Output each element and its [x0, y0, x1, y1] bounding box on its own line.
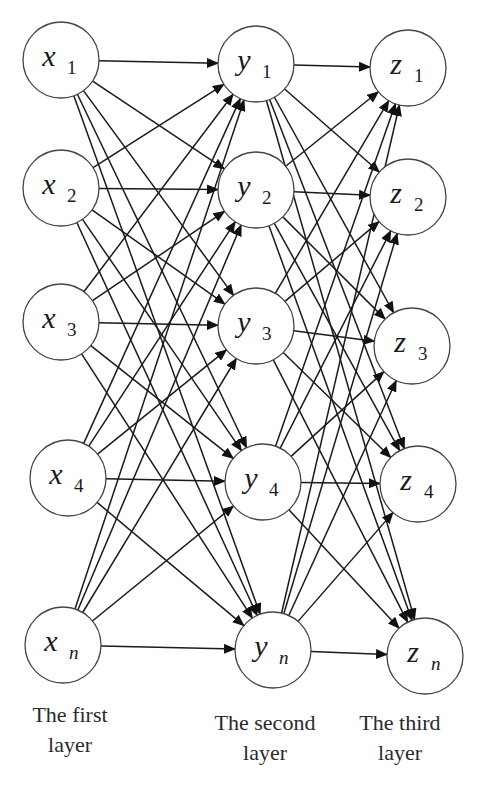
node-subscript: 3 — [67, 319, 77, 340]
node-label: y — [241, 461, 258, 494]
node-xn: xn — [25, 607, 101, 683]
node-circle — [235, 612, 311, 688]
node-subscript: 1 — [262, 61, 272, 82]
layer-label-third-line1: The third — [345, 708, 455, 738]
node-label: z — [406, 635, 419, 668]
edge-y4-z3 — [291, 372, 384, 457]
edge-xn-yn — [101, 646, 235, 649]
node-y1: y1 — [218, 26, 294, 102]
node-label: z — [389, 47, 402, 80]
node-circle — [25, 607, 101, 683]
layer-label-second: The second layer — [200, 708, 330, 768]
node-label: x — [43, 624, 58, 657]
node-subscript: 1 — [414, 65, 424, 86]
node-circle — [380, 446, 456, 522]
node-circle — [218, 26, 294, 102]
network-nodes: x1x2x3x4xny1y2y3y4ynz1z2z3z4zn — [23, 22, 463, 694]
node-label: x — [41, 167, 56, 200]
node-subscript: 3 — [418, 343, 428, 364]
node-label: y — [234, 43, 251, 76]
edge-y4-z4 — [301, 482, 380, 483]
node-circle — [23, 22, 99, 98]
node-circle — [370, 159, 446, 235]
node-circle — [218, 288, 294, 364]
edge-xn-y2 — [78, 225, 241, 610]
edge-yn-z2 — [284, 233, 397, 613]
layer-label-first-line2: layer — [10, 730, 130, 760]
node-circle — [30, 440, 106, 516]
node-x4: x4 — [30, 440, 106, 516]
node-circle — [370, 30, 446, 106]
node-subscript: 2 — [262, 187, 272, 208]
node-label: z — [399, 463, 412, 496]
edge-xn-y4 — [92, 506, 233, 621]
node-subscript: 4 — [269, 479, 279, 500]
node-x3: x3 — [23, 284, 99, 360]
node-subscript: 3 — [262, 323, 272, 344]
layer-label-second-line1: The second — [200, 708, 330, 738]
node-z2: z2 — [370, 159, 446, 235]
node-y2: y2 — [218, 152, 294, 228]
edge-y4-z1 — [276, 104, 396, 446]
network-diagram: x1x2x3x4xny1y2y3y4ynz1z2z3z4zn — [0, 0, 485, 787]
layer-label-second-line2: layer — [200, 738, 330, 768]
node-label: z — [393, 325, 406, 358]
node-y4: y4 — [225, 444, 301, 520]
node-subscript: 2 — [414, 194, 424, 215]
node-label: y — [234, 169, 251, 202]
node-label: z — [389, 176, 402, 209]
node-subscript: 4 — [424, 481, 434, 502]
node-y3: y3 — [218, 288, 294, 364]
node-z1: z1 — [370, 30, 446, 106]
node-circle — [218, 152, 294, 228]
node-yn: yn — [235, 612, 311, 688]
edge-y1-z4 — [270, 99, 405, 448]
edge-x4-yn — [97, 502, 244, 625]
node-circle — [23, 284, 99, 360]
layer-label-first: The first layer — [10, 700, 130, 760]
node-label: y — [234, 305, 251, 338]
node-subscript: n — [279, 647, 289, 668]
node-label: x — [41, 39, 56, 72]
node-subscript: n — [431, 653, 441, 674]
layer-label-first-line1: The first — [10, 700, 130, 730]
node-label: x — [41, 301, 56, 334]
node-circle — [23, 150, 99, 226]
node-label: x — [48, 457, 63, 490]
node-z4: z4 — [380, 446, 456, 522]
node-subscript: 1 — [67, 57, 77, 78]
node-circle — [374, 308, 450, 384]
node-x1: x1 — [23, 22, 99, 98]
node-circle — [387, 618, 463, 694]
edge-x4-y4 — [106, 479, 225, 481]
layer-label-third: The third layer — [345, 708, 455, 768]
node-subscript: 4 — [74, 475, 84, 496]
node-subscript: 2 — [67, 185, 77, 206]
edge-x1-y1 — [99, 61, 218, 63]
edge-y1-z1 — [294, 65, 370, 67]
node-subscript: n — [69, 642, 79, 663]
node-x2: x2 — [23, 150, 99, 226]
node-label: y — [251, 629, 268, 662]
layer-label-third-line2: layer — [345, 738, 455, 768]
node-zn: zn — [387, 618, 463, 694]
node-z3: z3 — [374, 308, 450, 384]
node-circle — [225, 444, 301, 520]
edge-yn-zn — [311, 651, 387, 654]
